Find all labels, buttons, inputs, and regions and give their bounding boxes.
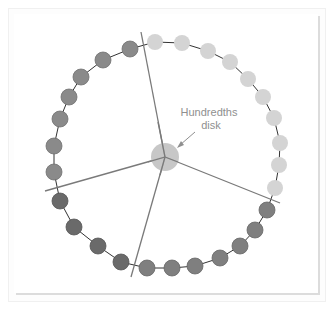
divider-bottom: [131, 157, 165, 277]
arrow-icon: [177, 132, 195, 148]
bead: [147, 34, 163, 50]
bead: [259, 202, 275, 218]
bead: [266, 110, 282, 126]
beads-diagram: Hundredths disk: [0, 0, 334, 311]
label-hundredths: Hundredths: [181, 106, 238, 118]
bead-group-bottom-right: [139, 202, 275, 276]
bead: [174, 35, 190, 51]
bead: [52, 111, 68, 127]
divider-right: [165, 157, 280, 203]
bead: [232, 238, 248, 254]
bead: [66, 219, 82, 235]
bead: [271, 157, 287, 173]
bead-group-bottom-left: [52, 193, 129, 270]
bead: [73, 69, 89, 85]
bead: [267, 180, 283, 196]
bead: [122, 41, 138, 57]
bead: [212, 250, 228, 266]
bead: [61, 89, 77, 105]
bead: [187, 258, 203, 274]
bead: [222, 54, 238, 70]
label-disk: disk: [201, 119, 221, 131]
bead: [46, 164, 62, 180]
bead: [240, 71, 256, 87]
bead: [52, 193, 68, 209]
bead: [113, 254, 129, 270]
bead: [247, 222, 263, 238]
bead-group-left: [46, 41, 138, 180]
bead: [95, 52, 111, 68]
divider-left: [45, 157, 165, 191]
bead: [90, 238, 106, 254]
bead: [272, 135, 288, 151]
bead: [164, 260, 180, 276]
bead: [255, 89, 271, 105]
bead: [46, 138, 62, 154]
bead: [139, 260, 155, 276]
bead: [200, 43, 216, 59]
